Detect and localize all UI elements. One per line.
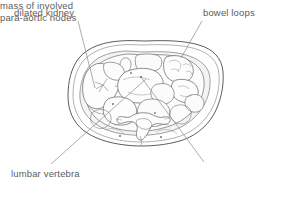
- label-dilated-kidney: dilated kidney: [14, 7, 74, 19]
- psoas-left-dot: [112, 103, 114, 105]
- label-lumbar-vertebra: lumbar vertebra: [11, 168, 80, 180]
- anatomical-diagram: .body-out { fill:#ffffff; stroke:#4a4a4a…: [0, 0, 303, 209]
- bowel-loop-4: [185, 94, 204, 112]
- anterior-marker-dot: [130, 72, 132, 74]
- mass-marker-dot: [154, 112, 156, 114]
- posterior-marker-dot-right: [160, 136, 162, 138]
- label-bowel-loops: bowel loops: [203, 7, 255, 19]
- posterior-marker-dot-left: [119, 135, 121, 137]
